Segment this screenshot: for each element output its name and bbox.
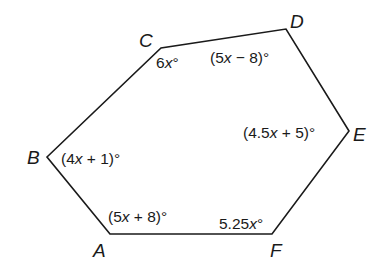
angle-labels: (5x + 8)°(4x + 1)°6x°(5x − 8)°(4.5x + 5)…: [61, 49, 315, 232]
vertex-label-b: B: [27, 147, 40, 168]
angle-label-c: 6x°: [156, 54, 179, 71]
hexagon-diagram: ABCDEF (5x + 8)°(4x + 1)°6x°(5x − 8)°(4.…: [0, 0, 384, 264]
angle-label-b: (4x + 1)°: [61, 150, 120, 167]
angle-label-e: (4.5x + 5)°: [243, 124, 315, 141]
angle-label-d: (5x − 8)°: [210, 49, 269, 66]
vertex-label-e: E: [353, 124, 366, 145]
vertex-label-c: C: [139, 30, 153, 51]
vertex-labels: ABCDEF: [27, 11, 366, 261]
vertex-label-a: A: [92, 240, 106, 261]
angle-label-f: 5.25x°: [219, 215, 263, 232]
vertex-label-d: D: [290, 11, 304, 32]
vertex-label-f: F: [270, 240, 283, 261]
angle-label-a: (5x + 8)°: [108, 208, 167, 225]
